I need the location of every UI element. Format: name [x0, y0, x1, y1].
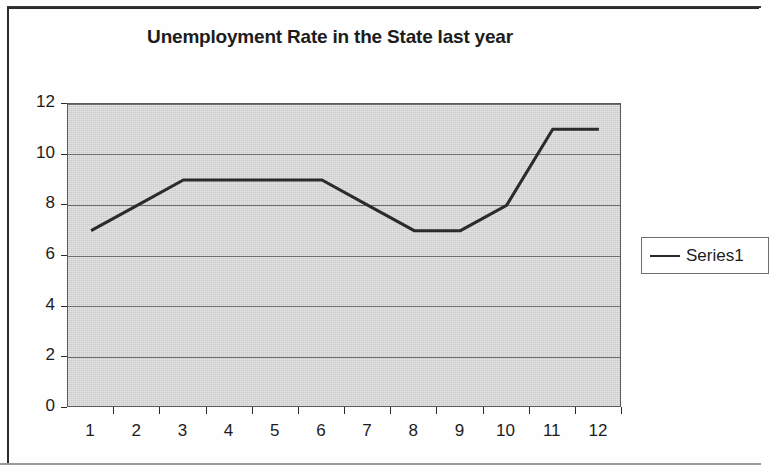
y-axis-tick-mark [61, 154, 67, 155]
x-axis-tick-mark [483, 407, 484, 414]
legend-item-label: Series1 [686, 246, 744, 266]
x-axis-tick-label: 10 [489, 421, 523, 441]
y-axis-tick-mark [61, 306, 67, 307]
x-axis-tick-mark [621, 407, 622, 414]
x-axis-tick-mark [159, 407, 160, 414]
x-axis-tick-mark [575, 407, 576, 414]
y-axis-tick-mark [61, 255, 67, 256]
x-axis-tick-label: 5 [258, 421, 292, 441]
x-axis-tick-mark [344, 407, 345, 414]
chart-title: Unemployment Rate in the State last year [30, 26, 630, 48]
y-axis-tick-label: 8 [15, 193, 55, 213]
x-axis-tick-label: 12 [581, 421, 615, 441]
x-axis-tick-label: 1 [73, 421, 107, 441]
y-axis-tick-label: 0 [15, 396, 55, 416]
y-axis-tick-label: 10 [15, 143, 55, 163]
x-axis-tick-label: 8 [396, 421, 430, 441]
x-axis-tick-mark [529, 407, 530, 414]
series1-line-swatch-icon [650, 255, 680, 257]
x-axis-tick-label: 11 [535, 421, 569, 441]
y-axis-tick-label: 4 [15, 295, 55, 315]
series1-line [91, 129, 599, 230]
y-axis-tick-label: 2 [15, 345, 55, 365]
x-axis-tick-label: 3 [165, 421, 199, 441]
x-axis-tick-label: 6 [304, 421, 338, 441]
page-bottom-rule [0, 463, 761, 465]
y-axis-tick-mark [61, 356, 67, 357]
y-axis-tick-mark [61, 103, 67, 104]
x-axis-tick-label: 7 [350, 421, 384, 441]
x-axis-tick-mark [390, 407, 391, 414]
y-axis-tick-label: 6 [15, 244, 55, 264]
plot-area [67, 103, 621, 407]
series-line-chart [68, 104, 621, 407]
x-axis-tick-label: 2 [119, 421, 153, 441]
x-axis-tick-mark [252, 407, 253, 414]
y-axis-tick-mark [61, 407, 67, 408]
x-axis-tick-mark [206, 407, 207, 414]
chart-legend: Series1 [641, 237, 769, 274]
x-axis-tick-mark [436, 407, 437, 414]
y-axis-tick-mark [61, 204, 67, 205]
x-axis-tick-label: 4 [212, 421, 246, 441]
x-axis-tick-label: 9 [442, 421, 476, 441]
x-axis-tick-mark [113, 407, 114, 414]
y-axis-tick-label: 12 [15, 92, 55, 112]
x-axis-tick-mark [298, 407, 299, 414]
